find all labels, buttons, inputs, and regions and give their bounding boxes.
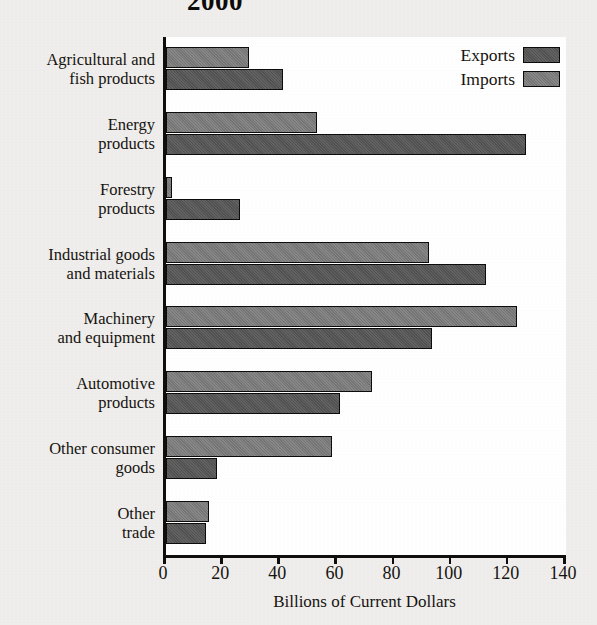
bar-group (166, 242, 566, 286)
legend-swatch (523, 71, 560, 87)
category-label-line: Forestry (0, 180, 155, 199)
plot-area (163, 37, 566, 558)
category-label: Other consumergoods (0, 439, 155, 477)
legend-item: Imports (432, 67, 560, 91)
category-label: Energyproducts (0, 115, 155, 153)
bar-imports (166, 242, 429, 263)
tick-label: 60 (304, 563, 364, 584)
bar-exports (166, 264, 486, 285)
bar-group (166, 501, 566, 545)
category-label-line: Energy (0, 115, 155, 134)
category-label-line: Automotive (0, 374, 155, 393)
chart-legend: ExportsImports (432, 43, 560, 91)
bar-group (166, 306, 566, 350)
category-label-line: and materials (0, 264, 155, 283)
bar-group (166, 177, 566, 221)
category-label-line: trade (0, 523, 155, 542)
bar-imports (166, 501, 209, 522)
category-label-line: goods (0, 458, 155, 477)
bar-group (166, 436, 566, 480)
tick-label: 20 (190, 563, 250, 584)
bar-group (166, 371, 566, 415)
category-label-line: products (0, 134, 155, 153)
category-label-line: Other (0, 504, 155, 523)
category-label: Othertrade (0, 504, 155, 542)
category-label-line: products (0, 393, 155, 412)
legend-label: Imports (461, 69, 515, 90)
category-label-line: Agricultural and (0, 50, 155, 69)
bar-exports (166, 134, 526, 155)
bar-exports (166, 393, 340, 414)
category-label-line: Other consumer (0, 439, 155, 458)
bar-exports (166, 328, 432, 349)
category-label: Automotiveproducts (0, 374, 155, 412)
category-label-line: products (0, 199, 155, 218)
category-label-line: and equipment (0, 328, 155, 347)
tick-label: 120 (476, 563, 536, 584)
bar-imports (166, 47, 249, 68)
category-label: Forestryproducts (0, 180, 155, 218)
category-label-column: Agricultural andfish productsEnergyprodu… (0, 37, 155, 555)
tick-label: 80 (362, 563, 422, 584)
legend-label: Exports (461, 45, 515, 66)
bar-imports (166, 371, 372, 392)
bar-imports (166, 436, 332, 457)
category-label-line: Industrial goods (0, 245, 155, 264)
trade-bar-chart: 2000 Agricultural andfish productsEnergy… (0, 0, 597, 625)
bar-exports (166, 199, 240, 220)
category-label: Agricultural andfish products (0, 50, 155, 88)
tick-label: 100 (419, 563, 479, 584)
bar-exports (166, 523, 206, 544)
tick-label: 0 (133, 563, 193, 584)
bar-imports (166, 177, 172, 198)
bar-exports (166, 458, 217, 479)
chart-title: 2000 (0, 0, 430, 17)
tick-label: 140 (533, 563, 593, 584)
tick-label: 40 (247, 563, 307, 584)
bar-exports (166, 69, 283, 90)
x-axis-tick-labels: 020406080100120140 (120, 563, 597, 589)
category-label-line: fish products (0, 69, 155, 88)
legend-swatch (523, 47, 560, 63)
category-label: Machineryand equipment (0, 309, 155, 347)
x-axis-title: Billions of Current Dollars (163, 592, 566, 612)
legend-item: Exports (432, 43, 560, 67)
category-label: Industrial goodsand materials (0, 245, 155, 283)
category-label-line: Machinery (0, 309, 155, 328)
bar-imports (166, 112, 317, 133)
bar-group (166, 112, 566, 156)
bar-imports (166, 306, 517, 327)
